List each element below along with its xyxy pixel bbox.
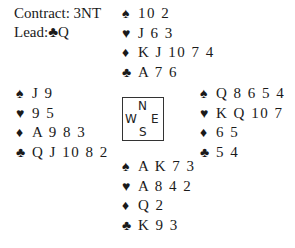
west-clubs: Q J 10 8 2 bbox=[32, 144, 109, 160]
south-hearts: A 8 4 2 bbox=[138, 178, 192, 194]
hand-east: ♠Q 8 6 5 4 ♥K Q 10 7 ♦6 5 ♣5 4 bbox=[200, 84, 285, 162]
diamond-icon: ♦ bbox=[122, 43, 138, 63]
contract-value: 3NT bbox=[74, 5, 102, 21]
hand-west: ♠J 9 ♥9 5 ♦A 9 8 3 ♣Q J 10 8 2 bbox=[16, 84, 109, 162]
lead-card: Q bbox=[58, 24, 69, 40]
compass-west: W bbox=[125, 113, 137, 125]
contract-label: Contract: bbox=[14, 5, 70, 21]
west-diamonds: A 9 8 3 bbox=[32, 124, 86, 140]
heart-icon: ♥ bbox=[16, 104, 32, 124]
west-spades: J 9 bbox=[32, 85, 54, 101]
south-spades: A K 7 3 bbox=[138, 158, 196, 174]
compass-east: E bbox=[151, 113, 159, 125]
compass-south: S bbox=[139, 126, 147, 138]
contract-info: Contract: 3NT bbox=[14, 4, 101, 23]
club-icon: ♣ bbox=[122, 216, 138, 236]
lead-info: Lead:♣Q bbox=[14, 23, 69, 42]
spade-icon: ♠ bbox=[122, 157, 138, 177]
diamond-icon: ♦ bbox=[122, 196, 138, 216]
north-hearts: J 6 3 bbox=[138, 25, 174, 41]
clubs-icon: ♣ bbox=[48, 24, 58, 40]
north-spades: 10 2 bbox=[138, 5, 170, 21]
heart-icon: ♥ bbox=[200, 104, 216, 124]
compass-box: N W E S bbox=[122, 97, 164, 141]
spade-icon: ♠ bbox=[16, 84, 32, 104]
east-spades: Q 8 6 5 4 bbox=[216, 85, 285, 101]
club-icon: ♣ bbox=[200, 143, 216, 163]
club-icon: ♣ bbox=[16, 143, 32, 163]
compass-north: N bbox=[138, 100, 147, 112]
spade-icon: ♠ bbox=[122, 4, 138, 24]
hand-north: ♠10 2 ♥J 6 3 ♦K J 10 7 4 ♣A 7 6 bbox=[122, 4, 215, 82]
diamond-icon: ♦ bbox=[16, 123, 32, 143]
heart-icon: ♥ bbox=[122, 177, 138, 197]
south-clubs: K 9 3 bbox=[138, 217, 179, 233]
north-clubs: A 7 6 bbox=[138, 64, 178, 80]
club-icon: ♣ bbox=[122, 63, 138, 83]
lead-label: Lead: bbox=[14, 24, 48, 40]
east-hearts: K Q 10 7 bbox=[216, 105, 283, 121]
hand-south: ♠A K 7 3 ♥A 8 4 2 ♦Q 2 ♣K 9 3 bbox=[122, 157, 196, 235]
diamond-icon: ♦ bbox=[200, 123, 216, 143]
east-clubs: 5 4 bbox=[216, 144, 239, 160]
north-diamonds: K J 10 7 4 bbox=[138, 44, 215, 60]
east-diamonds: 6 5 bbox=[216, 124, 239, 140]
spade-icon: ♠ bbox=[200, 84, 216, 104]
south-diamonds: Q 2 bbox=[138, 197, 165, 213]
west-hearts: 9 5 bbox=[32, 105, 55, 121]
heart-icon: ♥ bbox=[122, 24, 138, 44]
